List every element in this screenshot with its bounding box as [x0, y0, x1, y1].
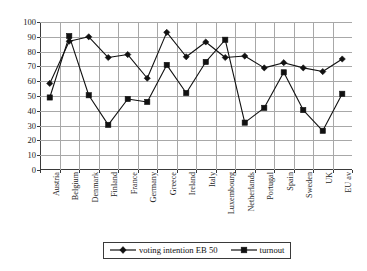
- y-axis-tick-label: 100: [23, 18, 36, 27]
- x-axis-label: Belgium: [69, 172, 77, 200]
- x-axis-label: UK: [323, 172, 331, 184]
- y-axis-tick-label: 10: [28, 151, 37, 160]
- data-point-diamond: [281, 60, 287, 66]
- y-axis-tick-label: 50: [28, 92, 37, 101]
- data-point-square: [67, 33, 72, 38]
- x-axis-label: Austria: [50, 172, 58, 196]
- x-axis-category-labels: AustriaBelgiumDenmarkFinlandFranceGerman…: [40, 172, 352, 230]
- data-point-diamond: [47, 80, 53, 86]
- x-axis-label-text: Netherlands: [248, 172, 256, 212]
- x-axis-label: Sweden: [303, 172, 311, 198]
- series-2: [47, 33, 345, 133]
- x-axis-label: Denmark: [89, 172, 97, 202]
- x-axis-label-text: EU av: [345, 172, 353, 193]
- data-point-diamond: [261, 65, 267, 71]
- data-point-square: [340, 91, 345, 96]
- x-axis-label-text: Greece: [170, 172, 178, 195]
- data-point-square: [164, 62, 169, 67]
- chart-legend: voting intention EB 50 turnout: [103, 242, 291, 259]
- legend-label-voting-intention: voting intention EB 50: [139, 246, 218, 255]
- y-axis-tick-label: 80: [28, 47, 37, 56]
- data-point-diamond: [320, 68, 326, 74]
- x-axis-label-text: Portugal: [267, 172, 275, 200]
- x-axis-label: Portugal: [264, 172, 272, 200]
- x-axis-label-text: Denmark: [92, 172, 100, 202]
- data-point-square: [203, 59, 208, 64]
- x-axis-label: Luxembourg: [225, 172, 233, 214]
- x-axis-label: Netherlands: [245, 172, 253, 212]
- x-axis-label: Germany: [147, 172, 155, 202]
- data-point-square: [320, 128, 325, 133]
- y-axis-tick-label: 40: [28, 107, 37, 116]
- data-point-square: [184, 90, 189, 95]
- plot-area: 0102030405060708090100: [40, 22, 352, 170]
- data-point-diamond: [339, 56, 345, 62]
- series-line: [50, 36, 343, 131]
- data-point-square: [47, 95, 52, 100]
- y-axis-tick-label: 0: [32, 166, 36, 175]
- data-point-diamond: [300, 65, 306, 71]
- data-series-layer: [40, 22, 352, 170]
- square-marker-icon: [231, 245, 257, 255]
- x-axis-label: Spain: [284, 172, 292, 191]
- x-axis-label-text: France: [131, 172, 139, 194]
- x-axis-label: Finland: [108, 172, 116, 197]
- y-axis-tick-label: 30: [28, 121, 37, 130]
- chart-container: 0102030405060708090100 AustriaBelgiumDen…: [0, 0, 367, 271]
- data-point-square: [145, 99, 150, 104]
- x-axis-label-text: Luxembourg: [228, 172, 236, 214]
- legend-entry-turnout: turnout: [231, 245, 285, 255]
- data-point-square: [281, 70, 286, 75]
- y-axis-tick-label: 90: [28, 33, 37, 42]
- diamond-marker-icon: [110, 245, 136, 255]
- x-axis-label-text: Sweden: [306, 172, 314, 198]
- data-point-diamond: [242, 53, 248, 59]
- x-axis-label: Ireland: [186, 172, 194, 195]
- x-axis-label-text: Belgium: [72, 172, 80, 200]
- x-axis-label-text: Italy: [209, 172, 217, 187]
- legend-entry-voting-intention: voting intention EB 50: [110, 245, 218, 255]
- data-point-square: [262, 105, 267, 110]
- y-axis-tick-label: 70: [28, 62, 37, 71]
- x-axis-label-text: Spain: [287, 172, 295, 191]
- x-axis-label: EU av: [342, 172, 350, 193]
- x-axis-label: Italy: [206, 172, 214, 187]
- series-line: [50, 32, 343, 83]
- y-axis-tick-label: 20: [28, 136, 37, 145]
- legend-label-turnout: turnout: [260, 246, 285, 255]
- x-axis-label-text: Austria: [53, 172, 61, 196]
- data-point-square: [242, 120, 247, 125]
- data-point-square: [86, 93, 91, 98]
- data-point-square: [106, 122, 111, 127]
- x-axis-label: France: [128, 172, 136, 194]
- x-axis-label-text: Finland: [111, 172, 119, 197]
- data-point-square: [301, 107, 306, 112]
- x-axis-label-text: Germany: [150, 172, 158, 202]
- data-point-square: [125, 96, 130, 101]
- data-point-square: [223, 37, 228, 42]
- y-axis-tick-label: 60: [28, 77, 37, 86]
- x-axis-label-text: UK: [326, 172, 334, 184]
- x-axis-label: Greece: [167, 172, 175, 195]
- x-axis-label-text: Ireland: [189, 172, 197, 195]
